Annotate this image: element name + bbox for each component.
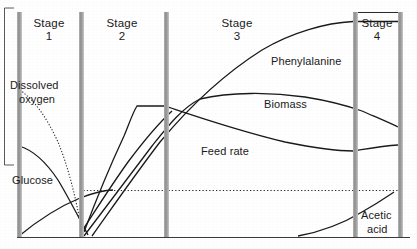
stage-2-number: 2 — [100, 30, 144, 43]
stage-label-3: Stage 3 — [215, 17, 259, 43]
stage-label-4: Stage 4 — [356, 17, 398, 43]
stage-divider-1 — [79, 12, 84, 237]
stage-divider-4 — [398, 12, 403, 237]
curve-label-dissolved-oxygen: Dissolved oxygen — [10, 78, 59, 106]
acetic-acid-line1: Acetic — [361, 209, 392, 221]
stage-3-word: Stage — [221, 17, 252, 29]
curve-glucose — [19, 146, 88, 235]
stage-2-word: Stage — [106, 17, 137, 29]
curve-label-phenylalanine: Phenylalanine — [271, 55, 341, 68]
fermentation-stage-chart: Stage 1 Stage 2 Stage 3 Stage 4 Dissolve… — [0, 0, 417, 249]
curve-biomass — [84, 93, 398, 236]
curve-label-glucose: Glucose — [12, 174, 53, 187]
stage-divider-2 — [164, 12, 169, 237]
stage-1-number: 1 — [27, 30, 71, 43]
curve-label-feed-rate: Feed rate — [201, 145, 249, 158]
stage-1-word: Stage — [33, 17, 64, 29]
curve-feed-rate — [84, 106, 398, 232]
dissolved-oxygen-line1: Dissolved — [10, 79, 59, 91]
acetic-acid-line2: acid — [367, 222, 392, 236]
curve-label-acetic-acid: Acetic acid — [361, 208, 392, 236]
stage-3-number: 3 — [215, 30, 259, 43]
stage-4-number: 4 — [356, 30, 398, 43]
stage-divider-0 — [17, 12, 22, 237]
stage-label-1: Stage 1 — [27, 17, 71, 43]
curve-dissolved-oxygen — [20, 90, 82, 232]
stage-label-2: Stage 2 — [100, 17, 144, 43]
curve-label-biomass: Biomass — [264, 98, 307, 111]
dissolved-oxygen-line2: oxygen — [19, 92, 59, 106]
stage-4-word: Stage — [361, 17, 392, 29]
stage-divider-3 — [353, 12, 358, 237]
curve-glucose-lower-branch — [19, 190, 113, 236]
